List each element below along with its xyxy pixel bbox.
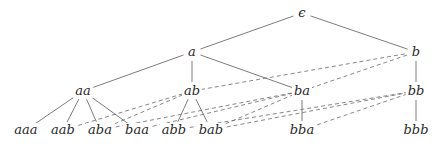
- node-bb: bb: [406, 84, 427, 98]
- node-aa: aa: [73, 84, 93, 98]
- node-eps: ϵ: [296, 6, 307, 20]
- tree-edge-aa-aaa: [33, 96, 75, 125]
- tree-edge-eps-a: [201, 16, 294, 49]
- link-edges: [72, 54, 408, 129]
- node-ba: ba: [292, 84, 312, 98]
- tree-edge-aa-aba: [87, 99, 97, 121]
- tree-edge-a-aa: [92, 55, 184, 88]
- tree-edge-a-ba: [201, 55, 294, 88]
- tree-edge-ab-abb: [178, 99, 188, 122]
- node-aaa: aaa: [12, 123, 39, 137]
- node-aba: aba: [86, 123, 114, 137]
- node-bba: bba: [288, 123, 316, 137]
- tree-edges: [33, 16, 416, 125]
- node-ab: ab: [182, 84, 202, 98]
- tree-edge-eps-b: [311, 16, 408, 49]
- node-baa: baa: [123, 123, 151, 137]
- link-edge-ba-b: [311, 55, 408, 88]
- node-bab: bab: [197, 123, 225, 137]
- node-b: b: [410, 45, 422, 59]
- node-a: a: [186, 45, 198, 59]
- node-abb: abb: [160, 123, 188, 137]
- node-aab: aab: [49, 123, 77, 137]
- link-edge-bba-bb: [311, 94, 408, 127]
- tree-edge-aa-aab: [67, 99, 79, 122]
- node-bbb: bbb: [402, 123, 431, 137]
